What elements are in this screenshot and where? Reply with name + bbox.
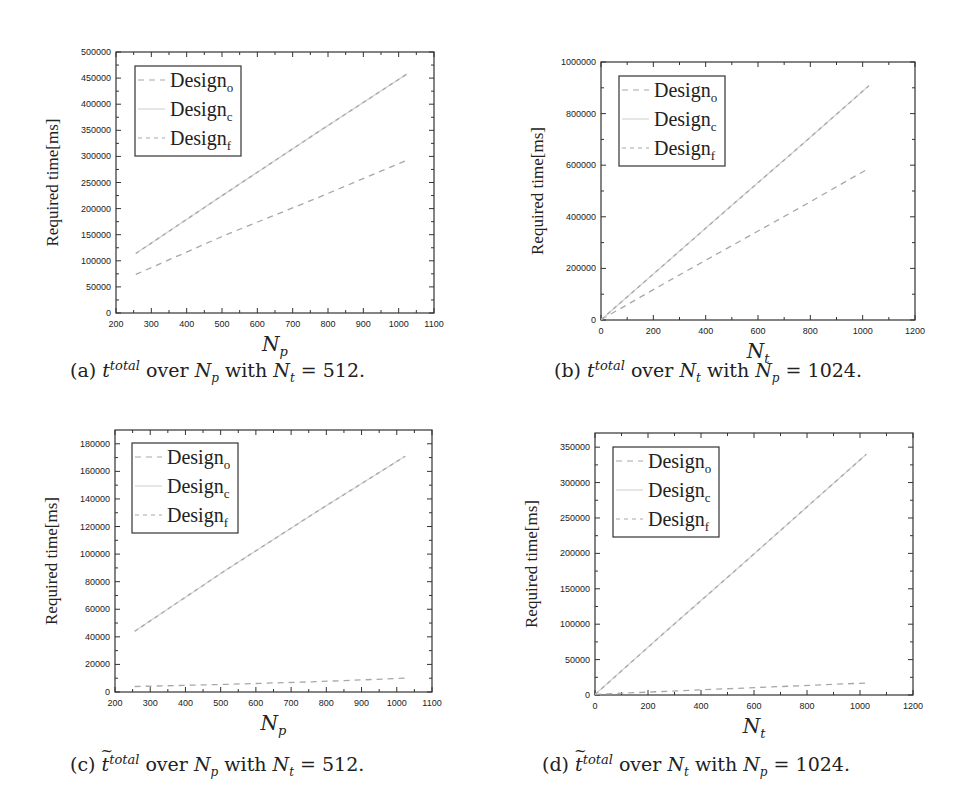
x-tick-label: 200 <box>108 319 123 329</box>
chart-d: 0200400600800100012000500001000001500002… <box>488 400 976 810</box>
x-tick-label: 900 <box>356 319 371 329</box>
series-line-o <box>595 683 866 694</box>
x-axis-label: Np <box>260 711 288 738</box>
y-tick-label: 300000 <box>560 478 590 488</box>
y-tick-label: 350000 <box>81 125 111 135</box>
plot-a: 2003004005006007008009001000110005000010… <box>0 0 488 400</box>
x-tick-label: 1100 <box>422 698 441 708</box>
x-tick-label: 700 <box>284 698 299 708</box>
x-tick-label: 600 <box>250 319 265 329</box>
y-tick-label: 150000 <box>81 230 111 240</box>
y-tick-label: 450000 <box>81 73 111 83</box>
x-tick-label: 300 <box>143 698 158 708</box>
plot-d: 0200400600800100012000500001000001500002… <box>488 400 976 810</box>
y-tick-label: 200000 <box>566 263 596 273</box>
x-tick-label: 800 <box>320 319 335 329</box>
x-tick-label: 500 <box>214 319 229 329</box>
x-tick-label: 200 <box>107 698 122 708</box>
x-tick-label: 700 <box>285 319 300 329</box>
x-tick-label: 600 <box>746 701 761 711</box>
x-tick-label: 1200 <box>903 701 923 711</box>
x-tick-label: 400 <box>179 319 194 329</box>
y-tick-label: 500000 <box>81 47 111 57</box>
y-tick-label: 300000 <box>81 151 111 161</box>
x-tick-label: 600 <box>248 698 263 708</box>
x-tick-label: 600 <box>750 326 765 336</box>
x-axis-label: Np <box>261 332 289 359</box>
plot-b: 0200400600800100012000200000400000600000… <box>488 0 976 400</box>
y-tick-label: 0 <box>591 315 596 325</box>
plot-c: 2003004005006007008009001000110002000040… <box>0 400 488 810</box>
y-tick-label: 350000 <box>560 442 590 452</box>
y-tick-label: 100000 <box>560 619 590 629</box>
x-tick-label: 400 <box>178 698 193 708</box>
y-tick-label: 180000 <box>80 439 110 449</box>
y-tick-label: 50000 <box>86 282 111 292</box>
x-tick-label: 800 <box>319 698 334 708</box>
y-tick-label: 1000000 <box>561 57 596 67</box>
x-tick-label: 800 <box>799 701 814 711</box>
y-tick-label: 140000 <box>80 494 110 504</box>
legend: DesignoDesigncDesignf <box>132 443 238 533</box>
x-tick-label: 1000 <box>853 326 873 336</box>
x-tick-label: 500 <box>213 698 228 708</box>
x-tick-label: 1000 <box>387 698 407 708</box>
x-tick-label: 900 <box>354 698 369 708</box>
y-tick-label: 200000 <box>81 204 111 214</box>
chart-a: 2003004005006007008009001000110005000010… <box>0 0 488 400</box>
y-axis-label: Required time[ms] <box>43 119 62 247</box>
y-tick-label: 400000 <box>81 99 111 109</box>
y-tick-label: 0 <box>105 687 110 697</box>
caption-d: (d) ttotal over Nt with Np = 1024. <box>542 752 850 779</box>
y-tick-label: 0 <box>106 308 111 318</box>
x-tick-label: 200 <box>646 326 661 336</box>
x-tick-label: 1000 <box>389 319 409 329</box>
chart-b: 0200400600800100012000200000400000600000… <box>488 0 976 400</box>
y-axis-label: Required time[ms] <box>528 127 547 255</box>
x-tick-label: 0 <box>592 701 597 711</box>
y-tick-label: 400000 <box>566 212 596 222</box>
y-tick-label: 40000 <box>85 632 110 642</box>
y-tick-label: 600000 <box>566 160 596 170</box>
series-line-o <box>601 168 869 319</box>
y-tick-label: 800000 <box>566 109 596 119</box>
legend: DesignoDesigncDesignf <box>613 447 719 537</box>
series-line-o <box>136 160 407 274</box>
x-tick-label: 800 <box>803 326 818 336</box>
y-tick-label: 100000 <box>81 256 111 266</box>
x-tick-label: 1200 <box>905 326 925 336</box>
x-tick-label: 400 <box>698 326 713 336</box>
x-tick-label: 0 <box>598 326 603 336</box>
x-tick-label: 1100 <box>424 319 443 329</box>
chart-c: 2003004005006007008009001000110002000040… <box>0 400 488 810</box>
x-tick-label: 200 <box>640 701 655 711</box>
y-tick-label: 20000 <box>85 659 110 669</box>
y-tick-label: 60000 <box>85 604 110 614</box>
y-tick-label: 200000 <box>560 548 590 558</box>
x-tick-label: 400 <box>693 701 708 711</box>
y-tick-label: 0 <box>585 690 590 700</box>
y-tick-label: 120000 <box>80 522 110 532</box>
caption-c: (c) ttotal over Np with Nt = 512. <box>70 752 364 779</box>
x-tick-label: 1000 <box>850 701 870 711</box>
y-tick-label: 250000 <box>560 513 590 523</box>
legend: DesignoDesigncDesignf <box>619 76 725 166</box>
y-tick-label: 50000 <box>565 655 590 665</box>
caption-b: (b) ttotal over Nt with Np = 1024. <box>554 358 862 385</box>
y-tick-label: 100000 <box>80 549 110 559</box>
legend: DesignoDesigncDesignf <box>135 66 241 156</box>
y-tick-label: 160000 <box>80 466 110 476</box>
caption-a: (a) ttotal over Np with Nt = 512. <box>70 358 365 385</box>
y-tick-label: 80000 <box>85 577 110 587</box>
y-tick-label: 150000 <box>560 584 590 594</box>
y-axis-label: Required time[ms] <box>42 497 61 625</box>
series-line-o <box>135 678 406 686</box>
x-axis-label: Nt <box>742 714 767 741</box>
y-axis-label: Required time[ms] <box>522 500 541 628</box>
x-tick-label: 300 <box>144 319 159 329</box>
y-tick-label: 250000 <box>81 178 111 188</box>
